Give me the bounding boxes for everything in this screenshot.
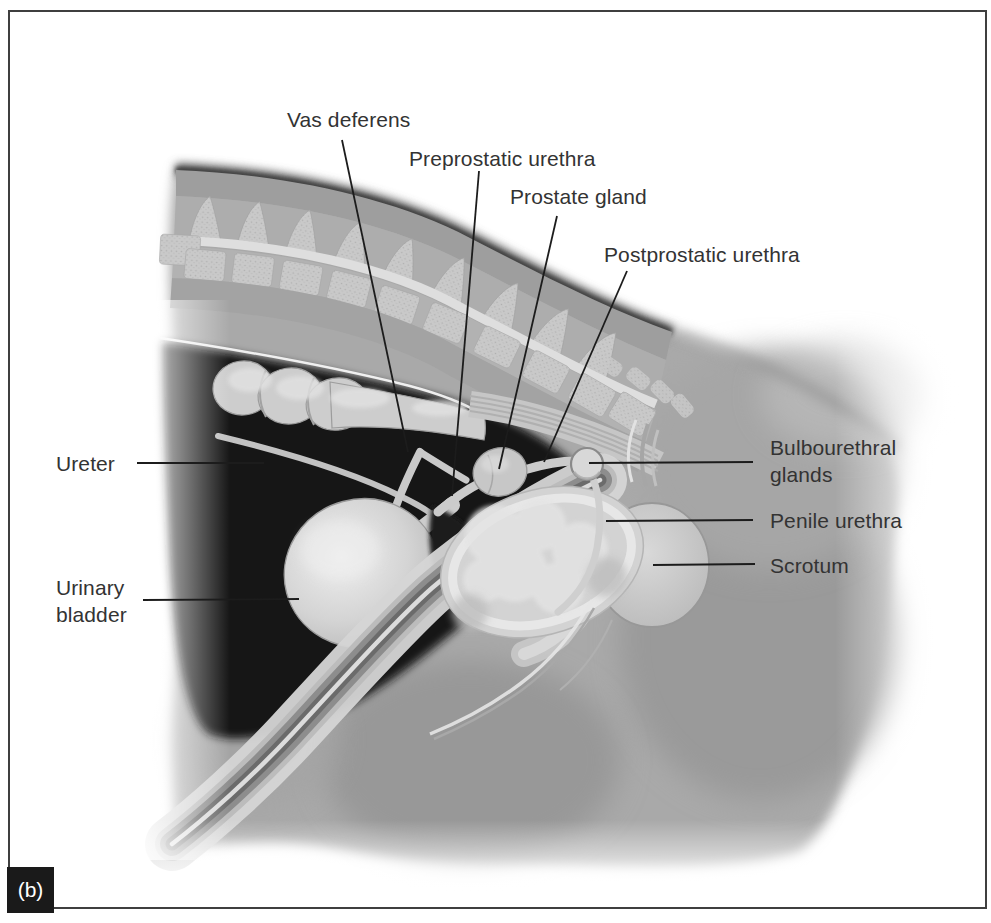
leader-penile-urethra bbox=[606, 520, 753, 521]
label-ureter: Ureter bbox=[56, 450, 115, 477]
leader-scrotum bbox=[653, 564, 755, 565]
leader-urinary-bladder bbox=[143, 599, 299, 600]
panel-tag: (b) bbox=[7, 867, 54, 913]
label-postprostatic-urethra: Postprostatic urethra bbox=[604, 241, 800, 268]
bulbourethral-gland-organ bbox=[571, 448, 603, 480]
leader-bulbourethral-glands bbox=[589, 462, 753, 463]
label-scrotum: Scrotum bbox=[770, 552, 890, 579]
label-prostate-gland: Prostate gland bbox=[510, 183, 647, 210]
label-urinary-bladder: Urinary bladder bbox=[56, 574, 156, 628]
figure-panel: Vas deferens Preprostatic urethra Prosta… bbox=[0, 0, 991, 923]
label-preprostatic-urethra: Preprostatic urethra bbox=[409, 145, 595, 172]
label-vas-deferens: Vas deferens bbox=[287, 106, 410, 133]
label-penile-urethra: Penile urethra bbox=[770, 507, 940, 534]
label-bulbourethral-glands: Bulbourethral glands bbox=[770, 434, 910, 488]
